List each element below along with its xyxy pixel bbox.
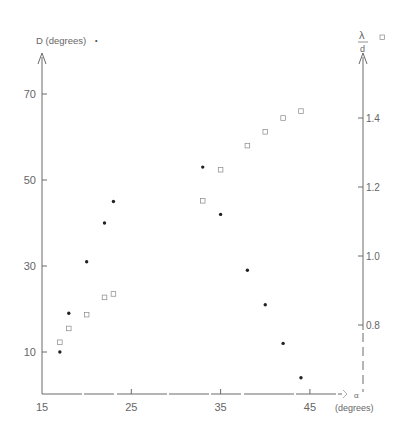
left-tick-label: 50 <box>24 174 36 186</box>
x-axis-symbol: α <box>354 391 359 400</box>
right-axis-title-lambda: λ <box>359 29 365 41</box>
data-point-dot <box>58 350 61 353</box>
data-point-square <box>66 326 71 331</box>
data-point-square <box>58 340 63 345</box>
data-point-square <box>84 312 89 317</box>
legend-square-icon <box>380 35 385 40</box>
ticks: 103050700.81.01.21.415253545 <box>24 88 381 413</box>
data-points <box>58 109 304 380</box>
left-axis-title: D (degrees) <box>36 35 86 46</box>
data-point-square <box>281 116 286 121</box>
data-point-dot <box>112 200 115 203</box>
data-point-dot <box>281 342 284 345</box>
x-tick-label: 35 <box>214 401 226 413</box>
data-point-dot <box>219 213 222 216</box>
data-point-dot <box>103 221 106 224</box>
left-tick-label: 30 <box>24 260 36 272</box>
data-point-square <box>263 130 268 135</box>
data-point-square <box>218 167 223 172</box>
axes <box>38 53 367 398</box>
left-tick-label: 70 <box>24 88 36 100</box>
data-point-dot <box>85 260 88 263</box>
x-tick-label: 25 <box>125 401 137 413</box>
x-axis-arrow-icon <box>343 390 347 398</box>
left-tick-label: 10 <box>24 346 36 358</box>
data-point-square <box>102 295 107 300</box>
x-tick-label: 15 <box>36 401 48 413</box>
legend-dot-icon: • <box>95 37 98 44</box>
data-point-square <box>200 199 205 204</box>
dual-axis-scatter-chart: 103050700.81.01.21.415253545 D (degrees)… <box>0 0 403 432</box>
data-point-square <box>299 109 304 114</box>
x-axis-unit: (degrees) <box>335 403 374 413</box>
data-point-square <box>111 292 116 297</box>
data-point-dot <box>264 303 267 306</box>
right-tick-label: 1.2 <box>366 182 380 193</box>
data-point-square <box>245 143 250 148</box>
data-point-dot <box>299 376 302 379</box>
data-point-dot <box>201 165 204 168</box>
x-tick-label: 45 <box>304 401 316 413</box>
right-tick-label: 1.0 <box>366 251 380 262</box>
right-axis-title-d: d <box>360 44 365 54</box>
right-tick-label: 0.8 <box>366 320 380 331</box>
data-point-dot <box>67 312 70 315</box>
data-point-dot <box>246 269 249 272</box>
right-tick-label: 1.4 <box>366 113 380 124</box>
